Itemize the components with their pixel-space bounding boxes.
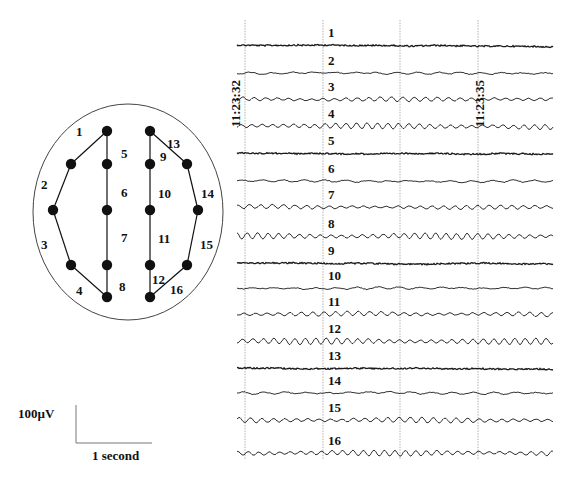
- trace-label: 10: [328, 268, 341, 283]
- electrode-montage-diagram: 12345678910111213141516: [33, 104, 223, 320]
- trace-channel-labels: 12345678910111213141516: [328, 25, 342, 448]
- electrode-dot: [48, 205, 58, 215]
- trace-label: 11: [328, 294, 340, 309]
- electrode-dot: [66, 260, 76, 270]
- channel-number-labels: 12345678910111213141516: [41, 124, 215, 298]
- channel-number-label: 14: [201, 186, 215, 201]
- electrode-dot: [193, 205, 203, 215]
- channel-link-15: [187, 210, 198, 265]
- electrode-dot: [145, 159, 155, 169]
- trace-label: 6: [328, 161, 335, 176]
- channel-number-label: 11: [158, 231, 170, 246]
- eeg-trace-7: [237, 204, 553, 209]
- eeg-trace-3: [237, 97, 553, 102]
- electrode-dot: [145, 205, 155, 215]
- electrode-dot: [102, 159, 112, 169]
- trace-label: 7: [328, 187, 335, 202]
- channel-number-label: 5: [121, 146, 128, 161]
- timestamp-label: 11:23:35: [472, 80, 487, 127]
- electrode-dot: [102, 292, 112, 302]
- electrode-dot: [102, 260, 112, 270]
- trace-label: 13: [328, 348, 342, 363]
- electrode-dot: [145, 260, 155, 270]
- channel-number-label: 16: [170, 282, 184, 297]
- trace-label: 2: [328, 53, 335, 68]
- trace-label: 9: [328, 243, 335, 258]
- eeg-trace-2: [237, 72, 553, 75]
- timestamps: 11:23:3211:23:35: [228, 80, 487, 127]
- channel-link-2: [53, 164, 71, 210]
- channel-number-label: 12: [152, 272, 165, 287]
- trace-label: 15: [328, 400, 342, 415]
- eeg-trace-13: [237, 367, 553, 370]
- eeg-trace-9: [237, 262, 553, 265]
- eeg-trace-5: [237, 152, 553, 155]
- channel-number-label: 1: [76, 124, 83, 139]
- eeg-traces: [237, 44, 553, 456]
- channel-link-14: [187, 164, 198, 210]
- electrode-dot: [102, 205, 112, 215]
- channel-number-label: 10: [158, 186, 171, 201]
- eeg-figure: 12345678910111213141516 100µV 1 second 1…: [0, 0, 575, 489]
- eeg-trace-11: [237, 311, 553, 317]
- eeg-trace-1: [237, 44, 553, 47]
- electrode-dot: [182, 159, 192, 169]
- trace-label: 16: [328, 433, 342, 448]
- trace-label: 12: [328, 321, 341, 336]
- trace-label: 8: [328, 216, 335, 231]
- channel-number-label: 6: [121, 185, 128, 200]
- eeg-trace-14: [237, 391, 553, 394]
- channel-link-3: [53, 210, 71, 265]
- voltage-scale-label: 100µV: [18, 406, 55, 421]
- electrode-dot: [182, 260, 192, 270]
- trace-label: 14: [328, 373, 342, 388]
- channel-number-label: 8: [119, 279, 126, 294]
- electrode-dot: [145, 292, 155, 302]
- eeg-trace-8: [237, 233, 553, 240]
- eeg-traces-panel: 12345678910111213141516 11:23:3211:23:35: [228, 20, 553, 460]
- scale-bar: 100µV 1 second: [18, 405, 152, 463]
- time-scale-label: 1 second: [92, 448, 140, 463]
- channel-number-label: 15: [200, 237, 214, 252]
- eeg-trace-15: [237, 417, 553, 423]
- channel-number-label: 3: [41, 237, 48, 252]
- trace-label: 5: [328, 133, 335, 148]
- electrode-dot: [102, 126, 112, 136]
- timestamp-label: 11:23:32: [228, 80, 243, 127]
- channel-number-label: 7: [121, 230, 128, 245]
- eeg-trace-16: [237, 450, 553, 456]
- electrode-dot: [145, 126, 155, 136]
- trace-label: 4: [328, 106, 335, 121]
- eeg-trace-6: [237, 180, 553, 183]
- trace-label: 3: [328, 79, 335, 94]
- electrode-dot: [66, 159, 76, 169]
- channel-number-label: 2: [41, 177, 48, 192]
- channel-number-label: 4: [76, 283, 83, 298]
- eeg-trace-10: [237, 287, 553, 290]
- trace-label: 1: [328, 25, 335, 40]
- eeg-trace-4: [237, 123, 553, 130]
- eeg-trace-12: [237, 338, 553, 345]
- channel-number-label: 9: [160, 149, 167, 164]
- channel-number-label: 13: [167, 136, 181, 151]
